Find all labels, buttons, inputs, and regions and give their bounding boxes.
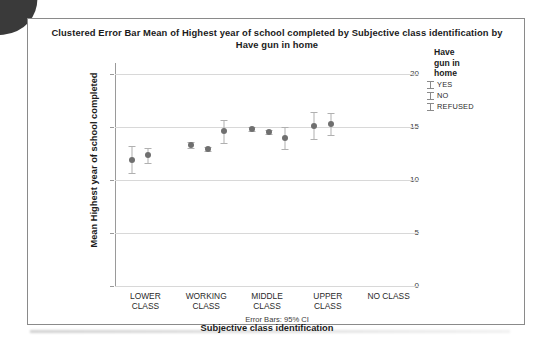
- error-bar-cap: [311, 139, 318, 140]
- legend-entry-label: NO: [437, 91, 449, 100]
- mean-marker: [328, 121, 334, 127]
- error-bar-cap: [128, 173, 135, 174]
- error-bar-cap: [128, 146, 135, 147]
- mean-marker: [205, 146, 211, 152]
- y-axis-label: Mean Highest year of school completed: [89, 0, 99, 320]
- y-tick-mark: [110, 286, 114, 287]
- gridline: [115, 127, 419, 128]
- error-bar-cap: [327, 135, 334, 136]
- chart-title-line1: Clustered Error Bar Mean of Highest year…: [51, 27, 502, 38]
- error-bar-cap: [311, 112, 318, 113]
- legend-entries: YESNOREFUSED: [426, 80, 522, 112]
- error-bar-icon: [426, 80, 435, 90]
- error-bar-cap: [221, 143, 228, 144]
- chart-frame: Clustered Error Bar Mean of Highest year…: [27, 18, 525, 325]
- mean-marker: [249, 126, 255, 132]
- error-bar-cap: [221, 120, 228, 121]
- x-category-label: NO CLASS: [351, 292, 427, 302]
- gridline: [115, 74, 419, 75]
- legend: Have gun in home YESNOREFUSED: [426, 47, 522, 112]
- y-tick-mark: [110, 74, 114, 75]
- legend-entry-no[interactable]: NO: [426, 91, 522, 101]
- mean-marker: [145, 152, 151, 158]
- legend-entry-yes[interactable]: YES: [426, 80, 522, 90]
- legend-title-line3: home: [434, 68, 457, 78]
- plot-region: Mean Highest year of school completed 05…: [86, 45, 419, 286]
- error-bar-icon: [426, 102, 435, 112]
- chart-footnote: Error Bars: 95% CI: [28, 315, 526, 324]
- legend-entry-label: REFUSED: [437, 102, 474, 111]
- x-axis-label: Subjective class identification: [115, 323, 419, 333]
- legend-title-line2: gun in: [434, 58, 460, 68]
- error-bar-cap: [327, 113, 334, 114]
- gridline: [115, 180, 419, 181]
- legend-entry-label: YES: [437, 80, 452, 89]
- error-bar-cap: [282, 127, 289, 128]
- legend-entry-refused[interactable]: REFUSED: [426, 102, 522, 112]
- legend-title: Have gun in home: [426, 47, 522, 79]
- y-tick-mark: [110, 127, 114, 128]
- mean-marker: [311, 123, 317, 129]
- mean-marker: [188, 142, 194, 148]
- error-bar-cap: [188, 148, 195, 149]
- gridline: [115, 233, 419, 234]
- plot-area: [115, 63, 419, 286]
- error-bar-cap: [145, 148, 152, 149]
- gridline: [115, 286, 419, 287]
- mean-marker: [129, 157, 135, 163]
- mean-marker: [282, 135, 288, 141]
- error-bar-cap: [145, 163, 152, 164]
- error-bar-icon: [426, 91, 435, 101]
- legend-title-line1: Have: [434, 47, 455, 57]
- mean-marker: [221, 128, 227, 134]
- error-bar-cap: [282, 149, 289, 150]
- y-tick-mark: [110, 180, 114, 181]
- y-tick-mark: [110, 233, 114, 234]
- mean-marker: [266, 129, 272, 135]
